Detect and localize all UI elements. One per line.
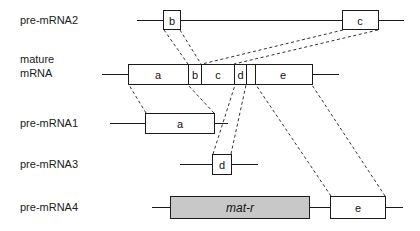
connector-pre-mrna3-d-left [213,85,235,154]
exon-label-mature-c: c [215,69,221,81]
row-pre-mrna4: pre-mRNA4 mat-r e [20,197,403,219]
row-pre-mrna3: pre-mRNA3 d [20,155,258,175]
connector-pre-mrna3-d-right [231,85,246,154]
exon-label-pre-mrna3-d: d [219,159,225,171]
exon-label-mature-b: b [192,69,198,81]
row-label-mature-line1: mature [20,53,54,65]
connector-pre-mrna2-b-left [164,30,188,64]
row-label-mature-line2: mRNA [20,67,53,79]
exon-label-pre-mrna4-e: e [355,202,361,214]
row-label-pre-mrna2: pre-mRNA2 [20,14,78,26]
row-label-pre-mrna1: pre-mRNA1 [20,117,78,129]
connector-pre-mrna1-a-right [188,85,214,113]
connector-pre-mrna2-b-right [180,30,201,64]
exon-label-pre-mrna2-b: b [169,15,175,27]
connector-pre-mrna4-e-right [312,85,385,196]
exon-label-mature-d: d [237,69,243,81]
exon-label-pre-mrna1-a: a [177,118,184,130]
row-mature-mrna: mature mRNA a b c d e [20,53,339,85]
connector-pre-mrna2-c-right [234,30,378,64]
exon-label-pre-mrna4-matr: mat-r [226,201,255,215]
row-label-pre-mrna3: pre-mRNA3 [20,158,78,170]
row-label-pre-mrna4: pre-mRNA4 [20,201,78,213]
row-pre-mrna1: pre-mRNA1 a [20,114,228,134]
diagram-canvas: pre-mRNA2 b c mature mRNA a b c d e pre-… [0,0,420,231]
row-pre-mrna2: pre-mRNA2 b c [20,11,404,30]
exon-label-mature-a: a [155,69,162,81]
exon-label-mature-e: e [280,69,286,81]
gene-structure-diagram: pre-mRNA2 b c mature mRNA a b c d e pre-… [0,0,420,231]
connector-pre-mrna1-a-left [129,85,146,113]
connector-pre-mrna2-c-left [202,30,343,64]
exon-label-pre-mrna2-c: c [357,15,363,27]
connector-pre-mrna4-e-left [256,85,331,196]
